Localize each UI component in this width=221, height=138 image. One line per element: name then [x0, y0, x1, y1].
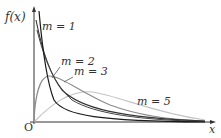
curve-m5: [34, 92, 205, 122]
m5-label: m = 5: [137, 96, 171, 107]
m3-pointer: [64, 77, 73, 82]
m2-pointer: [52, 67, 60, 78]
m1-label: m = 1: [42, 21, 76, 32]
density-plot: [0, 0, 221, 138]
x-axis-label: x: [209, 124, 215, 135]
curve-m2: [36, 20, 205, 121]
y-axis-arrow-icon: [32, 6, 36, 12]
origin-label: O: [24, 122, 33, 133]
y-axis-label: f(x): [5, 11, 26, 23]
m3-label: m = 3: [74, 66, 108, 77]
